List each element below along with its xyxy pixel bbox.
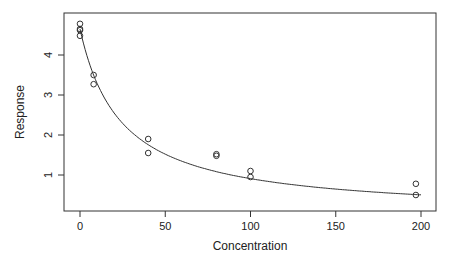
data-point bbox=[413, 181, 419, 187]
x-tick-label: 200 bbox=[412, 220, 430, 232]
x-tick-label: 50 bbox=[159, 220, 171, 232]
fitted-curve bbox=[80, 29, 421, 195]
y-axis-label: Response bbox=[13, 85, 27, 139]
plot-area bbox=[64, 13, 436, 211]
y-tick-label: 3 bbox=[42, 92, 54, 98]
data-point bbox=[248, 168, 254, 174]
x-tick-label: 100 bbox=[241, 220, 259, 232]
y-tick-label: 2 bbox=[42, 132, 54, 138]
y-tick-label: 1 bbox=[42, 172, 54, 178]
x-tick-label: 150 bbox=[327, 220, 345, 232]
data-point bbox=[91, 81, 97, 87]
data-point bbox=[145, 150, 151, 156]
x-tick-label: 0 bbox=[77, 220, 83, 232]
y-tick-label: 4 bbox=[42, 52, 54, 58]
x-axis-label: Concentration bbox=[213, 239, 288, 253]
data-points bbox=[77, 21, 418, 198]
chart: 0501001502001234 Concentration Response bbox=[0, 0, 452, 262]
axes: 0501001502001234 bbox=[42, 52, 430, 232]
plot-border bbox=[64, 13, 436, 211]
data-point bbox=[145, 136, 151, 142]
